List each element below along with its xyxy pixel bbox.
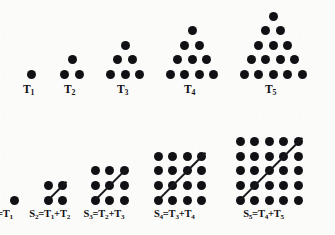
dot-t5 — [269, 12, 278, 21]
dot-s5 — [236, 181, 245, 190]
dot-s5 — [294, 166, 303, 175]
dot-t5 — [254, 70, 263, 79]
dot-s2 — [58, 196, 67, 205]
dot-s4 — [197, 166, 206, 175]
caption-t2: T2 — [64, 84, 75, 97]
dot-t3 — [121, 70, 130, 79]
dot-s5 — [294, 181, 303, 190]
dot-s5 — [279, 166, 288, 175]
dot-s3 — [105, 166, 114, 175]
dot-t4 — [195, 70, 204, 79]
dot-t4 — [166, 70, 175, 79]
dot-t2 — [75, 70, 84, 79]
dot-s5 — [279, 181, 288, 190]
dot-s4 — [183, 152, 192, 161]
dot-t3 — [113, 55, 122, 64]
equation-s3: S3=T2+T3 — [84, 209, 125, 221]
dot-t4 — [173, 55, 182, 64]
dot-s5 — [265, 137, 274, 146]
dot-t1 — [27, 70, 36, 79]
dot-t4 — [180, 41, 189, 50]
dot-s5 — [236, 152, 245, 161]
dot-s4 — [183, 181, 192, 190]
dot-s5 — [250, 166, 259, 175]
dot-t5 — [276, 55, 285, 64]
dot-s3 — [120, 181, 129, 190]
dot-s3 — [105, 196, 114, 205]
equation-s2: S2=T1+T2 — [29, 209, 70, 221]
dot-t2 — [68, 55, 77, 64]
dot-t4 — [209, 70, 218, 79]
dot-s5 — [236, 137, 245, 146]
dot-s5 — [250, 152, 259, 161]
dot-t5 — [283, 41, 292, 50]
dot-s5 — [265, 196, 274, 205]
equation-s1: S1=T1 — [0, 209, 13, 221]
dot-s5 — [279, 196, 288, 205]
dot-s4 — [183, 196, 192, 205]
dot-t4 — [202, 55, 211, 64]
equation-s5: S5=T4+T5 — [243, 209, 284, 221]
caption-t5: T5 — [265, 84, 276, 97]
dot-s4 — [197, 196, 206, 205]
dot-t5 — [290, 55, 299, 64]
dot-s4 — [154, 181, 163, 190]
dot-s3 — [91, 166, 100, 175]
dot-t3 — [128, 55, 137, 64]
dot-t3 — [121, 41, 130, 50]
dot-t4 — [180, 70, 189, 79]
caption-t1: T1 — [23, 84, 34, 97]
dot-t5 — [269, 41, 278, 50]
dot-s5 — [236, 166, 245, 175]
dot-s5 — [294, 152, 303, 161]
dot-s5 — [279, 137, 288, 146]
dot-s5 — [265, 181, 274, 190]
dot-t5 — [261, 26, 270, 35]
diagonal-line-s4 — [157, 152, 205, 200]
dot-s5 — [294, 196, 303, 205]
caption-t3: T3 — [117, 84, 128, 97]
dot-s4 — [154, 166, 163, 175]
dot-t4 — [188, 26, 197, 35]
dot-s4 — [168, 166, 177, 175]
dot-s4 — [168, 196, 177, 205]
dot-s4 — [197, 181, 206, 190]
dot-s4 — [168, 152, 177, 161]
dot-s2 — [44, 181, 53, 190]
dot-t4 — [195, 41, 204, 50]
dot-t3 — [106, 70, 115, 79]
dot-s5 — [250, 196, 259, 205]
dot-pattern-figure: T1T2T3T4T5S1=T1S2=T1+T2S3=T2+T3S4=T3+T4S… — [0, 0, 335, 235]
dot-s3 — [120, 196, 129, 205]
dot-s5 — [250, 137, 259, 146]
dot-t5 — [240, 70, 249, 79]
dot-t4 — [188, 55, 197, 64]
dot-s1 — [10, 196, 19, 205]
equation-s4: S4=T3+T4 — [154, 209, 195, 221]
dot-t5 — [283, 70, 292, 79]
dot-s4 — [154, 152, 163, 161]
dot-t5 — [247, 55, 256, 64]
dot-s3 — [91, 181, 100, 190]
dot-t5 — [254, 41, 263, 50]
dot-t5 — [298, 70, 307, 79]
dot-s5 — [265, 152, 274, 161]
caption-t4: T4 — [184, 84, 195, 97]
dot-t5 — [269, 70, 278, 79]
dot-t5 — [276, 26, 285, 35]
dot-t2 — [60, 70, 69, 79]
dot-t5 — [261, 55, 270, 64]
dot-t3 — [135, 70, 144, 79]
